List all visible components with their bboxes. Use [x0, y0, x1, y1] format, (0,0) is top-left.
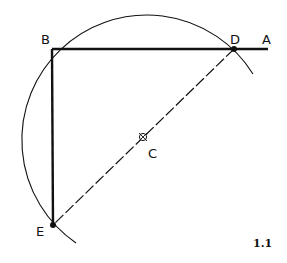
geometry-diagram: B D A C E 1.1: [0, 0, 287, 263]
label-b: B: [41, 32, 50, 47]
label-d: D: [230, 32, 240, 47]
figure-number: 1.1: [253, 237, 272, 250]
line-be: [52, 49, 53, 225]
point-e: [50, 222, 56, 228]
label-e: E: [36, 224, 44, 239]
label-c: C: [148, 146, 157, 161]
label-a: A: [262, 32, 271, 47]
center-c-marker: [139, 133, 147, 141]
